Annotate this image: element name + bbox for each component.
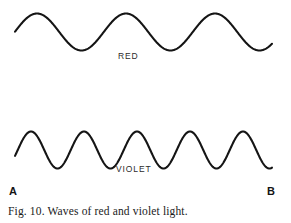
endpoint-label-a: A: [9, 186, 17, 197]
figure-container: RED VIOLET A B Fig. 10. Waves of red and…: [0, 0, 291, 223]
figure-caption: Fig. 10. Waves of red and violet light.: [8, 205, 283, 219]
violet-wave-label: VIOLET: [116, 165, 152, 174]
red-wave-label: RED: [118, 52, 139, 61]
endpoint-label-b: B: [267, 186, 275, 197]
wave-diagram: [0, 0, 291, 223]
canvas-background: [0, 0, 291, 223]
